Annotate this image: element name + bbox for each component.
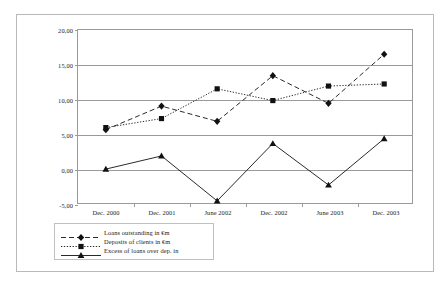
x-tick-mark <box>134 203 135 207</box>
x-tick-label: Dec. 2001 <box>148 209 175 216</box>
legend-label: Loans outstanding in €m <box>104 229 170 236</box>
diamond-marker <box>158 103 164 110</box>
series-line <box>106 54 384 129</box>
chart-figure: 20,0015,0010,005,000,00-5,00 Dec. 2000De… <box>16 14 434 272</box>
square-marker <box>103 125 108 130</box>
legend-label: Deposits of clients in €m <box>104 238 170 245</box>
x-tick-label: Dec. 2002 <box>260 209 287 216</box>
diamond-marker <box>214 118 220 125</box>
triangle-marker <box>158 153 165 159</box>
series-1 <box>103 51 388 134</box>
legend-label: Excess of loans over dep. in <box>104 247 179 254</box>
x-tick-mark <box>302 203 303 207</box>
square-marker <box>215 86 220 91</box>
y-tick-label: 5,00 <box>61 132 73 139</box>
legend-item: Loans outstanding in €m <box>60 228 208 237</box>
legend: Loans outstanding in €mDeposits of clien… <box>54 223 214 260</box>
y-tick-mark <box>75 205 78 206</box>
y-tick-label: 10,00 <box>58 97 73 104</box>
x-tick-label: June 2002 <box>205 209 232 216</box>
x-tick-label: Dec. 2000 <box>92 209 119 216</box>
series-2 <box>103 81 387 130</box>
legend-item: Excess of loans over dep. in <box>60 246 208 255</box>
square-marker <box>382 81 387 86</box>
y-tick-label: -5,00 <box>59 202 73 209</box>
x-tick-mark <box>246 203 247 207</box>
x-tick-mark <box>190 203 191 207</box>
square-marker <box>159 116 164 121</box>
plot-area: 20,0015,0010,005,000,00-5,00 Dec. 2000De… <box>77 29 413 204</box>
legend-swatch <box>60 228 102 237</box>
diamond-marker <box>270 72 276 79</box>
triangle-marker <box>381 135 388 141</box>
y-tick-label: 20,00 <box>58 27 73 34</box>
y-tick-label: 15,00 <box>58 62 73 69</box>
square-marker <box>326 83 331 88</box>
legend-swatch <box>60 246 102 255</box>
diamond-marker <box>381 51 387 58</box>
series-line <box>106 139 384 201</box>
x-tick-mark <box>358 203 359 207</box>
legend-item: Deposits of clients in €m <box>60 237 208 246</box>
series-layer <box>78 30 412 203</box>
x-tick-label: Dec. 2003 <box>372 209 399 216</box>
series-3 <box>102 135 387 203</box>
x-tick-label: June 2003 <box>317 209 344 216</box>
y-tick-label: 0,00 <box>61 167 73 174</box>
square-marker <box>270 98 275 103</box>
legend-swatch <box>60 237 102 246</box>
triangle-marker <box>269 140 276 146</box>
